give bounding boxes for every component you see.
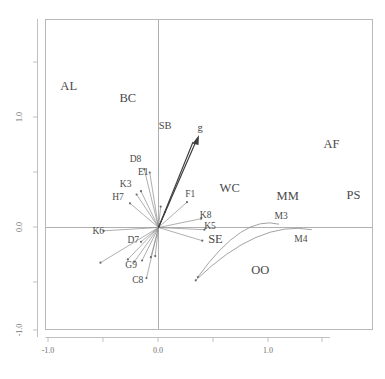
vector-label-sb: SB [159,120,172,131]
group-label-se: SE [208,232,223,246]
biplot-figure: -1.0 0.0 1.0 1.0 0.0 -1.0 ALBCAFWCMMPSSE… [0,0,385,379]
point-label-f1: F1 [185,189,195,199]
x-tick-label-zero: 0.0 [153,346,163,355]
vector-label-g: g [197,122,203,133]
group-label-ps: PS [346,188,360,202]
point-label-d7: D7 [128,235,140,245]
y-tick-label-neg1: -1.0 [15,324,24,337]
point-label-k6: K6 [92,226,104,236]
point-label-m3: M3 [275,211,288,221]
point-label-k8: K8 [200,210,212,220]
point-label-m4: M4 [294,234,307,244]
x-axis-ticks [48,338,322,343]
ray-K6 [103,228,159,232]
ray-E1 [149,171,159,227]
ray-G9-b [133,228,158,263]
group-label-af: AF [324,137,340,151]
point-label-h7: H7 [112,192,124,202]
group-label-al: AL [60,79,77,93]
x-tick-label-pos1: 1.0 [263,346,273,355]
point-label-e1: E1 [138,167,149,177]
point-label-c8: C8 [132,275,143,285]
point-label-bundle: D8E1K3H7F1K8K5K6D7G9C8M3M4 [92,154,307,285]
y-tick-label-pos1: 1.0 [15,112,24,122]
y-axis-ticks [33,62,38,330]
vector-label-bundle: gSB [159,120,204,133]
group-label-bc: BC [119,91,136,105]
point-label-g9: G9 [125,260,137,270]
x-tick-label-neg1: -1.0 [42,346,55,355]
ray-F1 [159,201,189,227]
plot-frame [46,20,373,330]
point-label-k3: K3 [120,179,132,189]
group-label-bundle: ALBCAFWCMMPSSEOO [60,79,360,277]
group-label-mm: MM [277,189,299,203]
ordination-biplot-canvas: -1.0 0.0 1.0 1.0 0.0 -1.0 ALBCAFWCMMPSSE… [0,0,385,379]
ray-K5 [159,228,206,231]
ray-H7 [129,202,159,227]
ray-bundle [99,168,205,279]
y-tick-label-zero: 0.0 [15,222,24,232]
point-label-d8: D8 [130,154,142,164]
vector-g-arrow-secondary [159,142,194,228]
point-label-k5: K5 [204,221,216,231]
ray-K8 [159,218,203,228]
group-label-oo: OO [251,263,269,277]
group-label-wc: WC [220,181,240,195]
ray-D8 [143,168,158,227]
